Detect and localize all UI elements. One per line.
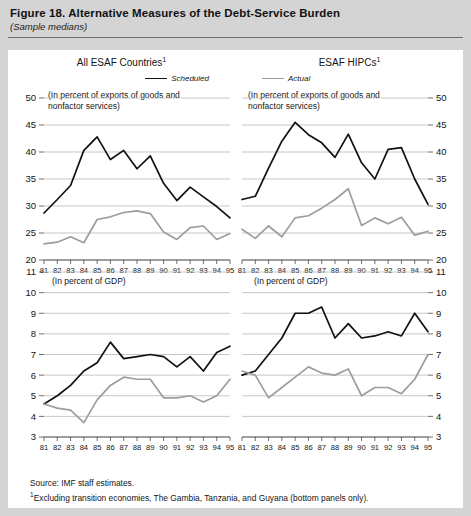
series-line-actual [44,211,230,244]
footnote: 1Excluding transition economies, The Gam… [30,489,463,504]
figure-notes: Source: IMF staff estimates. 1Excluding … [8,474,463,508]
y-axis-tick-label: 4 [31,411,36,422]
y-axis-tick-label: 3 [436,431,441,442]
footnote-text: Excluding transition economies, The Gamb… [34,493,369,503]
x-axis-tick-label: 85 [291,443,299,452]
x-axis-tick-label: 86 [106,443,114,452]
x-axis-tick-label: 85 [93,443,101,452]
x-axis-tick-label: 84 [278,443,286,452]
y-axis-tick-label: 8 [436,328,441,339]
x-axis-tick-label: 90 [357,443,365,452]
chart-panel-card: All ESAF Countries1 Scheduled (In percen… [8,50,463,474]
y-axis-tick-label: 7 [31,349,36,360]
y-axis-tick-label: 50 [25,92,36,103]
y-axis-tick-label: 10 [25,287,36,298]
y-axis-tick-label: 5 [31,390,36,401]
y-axis-tick-label: 45 [436,119,447,130]
y-axis-tick-label: 40 [436,146,447,157]
series-line-actual [242,355,428,398]
x-axis-tick-label: 87 [317,443,325,452]
y-axis-tick-label: 40 [25,146,36,157]
y-axis-tick-label: 9 [31,308,36,319]
y-axis-tick-label: 25 [25,227,36,238]
x-axis-tick-label: 83 [264,443,272,452]
panel-top-right-plot: 2025303540455081828384858687888990919293… [236,50,463,262]
x-axis-tick-label: 93 [397,443,405,452]
y-axis-tick-label: 35 [436,173,447,184]
x-axis-tick-label: 94 [410,443,418,452]
x-axis-tick-label: 88 [331,443,339,452]
x-axis-tick-label: 81 [40,443,48,452]
x-axis-tick-label: 86 [304,443,312,452]
y-axis-tick-label: 6 [436,370,441,381]
y-axis-tick-label: 30 [436,200,447,211]
x-axis-tick-label: 88 [133,443,141,452]
series-line-scheduled [242,307,428,375]
x-axis-tick-label: 82 [251,443,259,452]
y-axis-tick-label: 45 [25,119,36,130]
x-axis-tick-label: 87 [119,443,127,452]
x-axis-tick-label: 95 [226,443,234,452]
figure-subtitle: (Sample medians) [10,21,461,33]
y-axis-tick-label: 35 [25,173,36,184]
x-axis-tick-label: 95 [424,443,432,452]
x-axis-tick-label: 91 [173,443,181,452]
series-line-scheduled [242,122,428,204]
figure-header: Figure 18. Alternative Measures of the D… [0,0,471,33]
source-note: Source: IMF staff estimates. [30,477,463,489]
figure-title: Figure 18. Alternative Measures of the D… [10,6,461,20]
figure-root: Figure 18. Alternative Measures of the D… [0,0,471,516]
panel-bottom-left-plot: 3456789101181828384858687888990919293949… [8,262,235,474]
x-axis-tick-label: 91 [371,443,379,452]
panel-top-left: All ESAF Countries1 Scheduled (In percen… [8,50,235,262]
x-axis-tick-label: 82 [53,443,61,452]
x-axis-tick-label: 90 [159,443,167,452]
chart-grid: All ESAF Countries1 Scheduled (In percen… [8,50,463,474]
y-axis-tick-label: 50 [436,92,447,103]
x-axis-tick-label: 84 [80,443,88,452]
y-axis-tick-label: 9 [436,308,441,319]
y-axis-tick-label: 11 [26,266,36,277]
x-axis-tick-label: 83 [66,443,74,452]
panel-bottom-right: (In percent of GDP) 34567891011818283848… [236,262,463,474]
x-axis-tick-label: 81 [238,443,246,452]
y-axis-tick-label: 7 [436,349,441,360]
y-axis-tick-label: 8 [31,328,36,339]
panel-top-right: ESAF HIPCs1 Actual (In percent of export… [236,50,463,262]
x-axis-tick-label: 92 [384,443,392,452]
series-line-scheduled [44,342,230,404]
x-axis-tick-label: 93 [199,443,207,452]
x-axis-tick-label: 89 [344,443,352,452]
y-axis-tick-label: 11 [436,266,446,277]
x-axis-tick-label: 89 [146,443,154,452]
y-axis-tick-label: 6 [31,370,36,381]
header-divider [8,37,463,38]
y-axis-tick-label: 3 [31,431,36,442]
y-axis-tick-label: 25 [436,227,447,238]
x-axis-tick-label: 94 [212,443,220,452]
y-axis-tick-label: 4 [436,411,441,422]
y-axis-tick-label: 5 [436,390,441,401]
y-axis-tick-label: 30 [25,200,36,211]
panel-top-left-plot: 2025303540455081828384858687888990919293… [8,50,235,262]
panel-bottom-right-plot: 3456789101181828384858687888990919293949… [236,262,463,474]
x-axis-tick-label: 92 [186,443,194,452]
y-axis-tick-label: 10 [436,287,447,298]
panel-bottom-left: (In percent of GDP) 34567891011818283848… [8,262,235,474]
series-line-actual [242,189,428,239]
